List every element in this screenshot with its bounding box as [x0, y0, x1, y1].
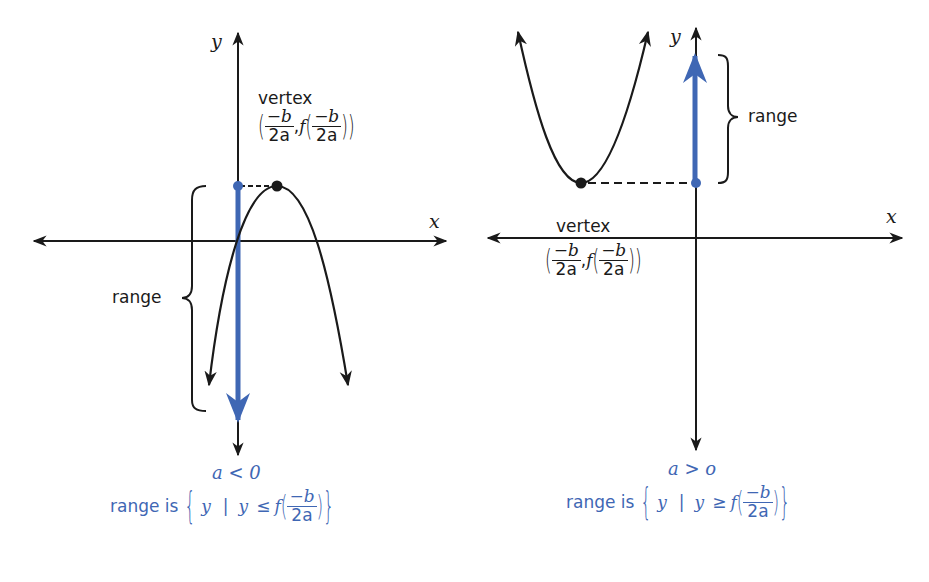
- set-variable: y: [201, 496, 211, 516]
- fraction-denominator: 2a: [267, 127, 292, 145]
- range-is-text: range is: [566, 492, 634, 512]
- set-open-brace: {: [640, 480, 651, 524]
- close-paren: ): [635, 243, 642, 277]
- fraction-denominator: 2a: [601, 261, 626, 279]
- right-range-label: range: [748, 106, 797, 126]
- open-paren: (: [545, 243, 552, 277]
- close-paren: ): [348, 109, 355, 143]
- right-vertex-label: vertex: [556, 216, 610, 236]
- right-parabola: [518, 32, 648, 183]
- left-condition: a < 0: [212, 462, 261, 483]
- open-paren: (: [592, 243, 599, 277]
- fraction-denominator: 2a: [289, 507, 314, 525]
- inequality-lhs: y: [239, 496, 249, 516]
- right-range-endpoint-dot: [691, 178, 701, 188]
- right-condition: a > o: [668, 458, 716, 479]
- left-graph: [34, 33, 446, 455]
- left-x-axis-label: x: [429, 210, 440, 232]
- inequality-lhs: y: [695, 492, 705, 512]
- right-y-axis-label: y: [670, 25, 681, 47]
- left-vertex-label: vertex: [258, 88, 312, 108]
- close-paren: ): [628, 243, 635, 277]
- open-paren: (: [258, 109, 265, 143]
- set-open-brace: {: [184, 484, 195, 528]
- open-paren: (: [305, 109, 312, 143]
- left-vertex-dot: [272, 181, 283, 192]
- left-parabola: [209, 186, 348, 385]
- right-vertex-dot: [576, 178, 587, 189]
- set-close-brace: }: [779, 480, 790, 524]
- left-range-brace: [182, 186, 206, 411]
- right-graph: [488, 28, 902, 450]
- close-paren: ): [341, 109, 348, 143]
- right-range-brace: [718, 55, 738, 183]
- set-close-brace: }: [323, 484, 334, 528]
- fraction-denominator: 2a: [314, 127, 339, 145]
- range-is-text: range is: [110, 496, 178, 516]
- fraction-denominator: 2a: [554, 261, 579, 279]
- right-range-statement: range is { y | y ≥ f ( −b2a ) }: [566, 484, 790, 521]
- left-range-label: range: [112, 287, 161, 307]
- left-y-axis-label: y: [211, 30, 222, 52]
- fraction-denominator: 2a: [745, 503, 770, 521]
- right-x-axis-label: x: [886, 205, 897, 227]
- left-range-statement: range is { y | y ≤ f ( −b2a ) }: [110, 488, 334, 525]
- such-that-bar: |: [679, 492, 685, 512]
- set-variable: y: [657, 492, 667, 512]
- left-vertex-coordinate: ( −b2a , f ( −b2a ) ): [258, 108, 355, 145]
- such-that-bar: |: [223, 496, 229, 516]
- relation-geq: ≥: [712, 492, 726, 512]
- left-range-endpoint-dot: [233, 181, 243, 191]
- right-vertex-coordinate: ( −b2a , f ( −b2a ) ): [545, 242, 642, 279]
- relation-leq: ≤: [256, 496, 270, 516]
